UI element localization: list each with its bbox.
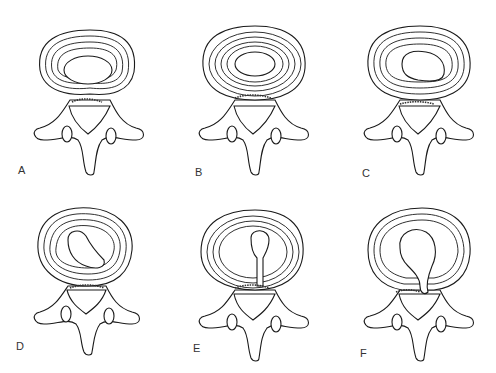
panel-c: C [330, 0, 496, 186]
vertebra-disc-drawing [330, 186, 496, 373]
panel-label: F [360, 347, 367, 359]
panel-a: A [0, 0, 165, 186]
panel-label: D [16, 340, 24, 352]
vertebra-disc-drawing [0, 186, 165, 373]
panel-d: D [0, 186, 165, 373]
vertebra-disc-drawing [165, 186, 330, 373]
panel-label: C [362, 167, 370, 179]
panel-label: E [193, 342, 200, 354]
panel-b: B [165, 0, 330, 186]
vertebra-disc-drawing [165, 0, 330, 186]
panel-label: A [18, 164, 25, 176]
vertebra-disc-drawing [330, 0, 496, 186]
panel-e: E [165, 186, 330, 373]
panel-label: B [195, 166, 202, 178]
vertebra-disc-drawing [0, 0, 165, 186]
panel-f: F [330, 186, 496, 373]
